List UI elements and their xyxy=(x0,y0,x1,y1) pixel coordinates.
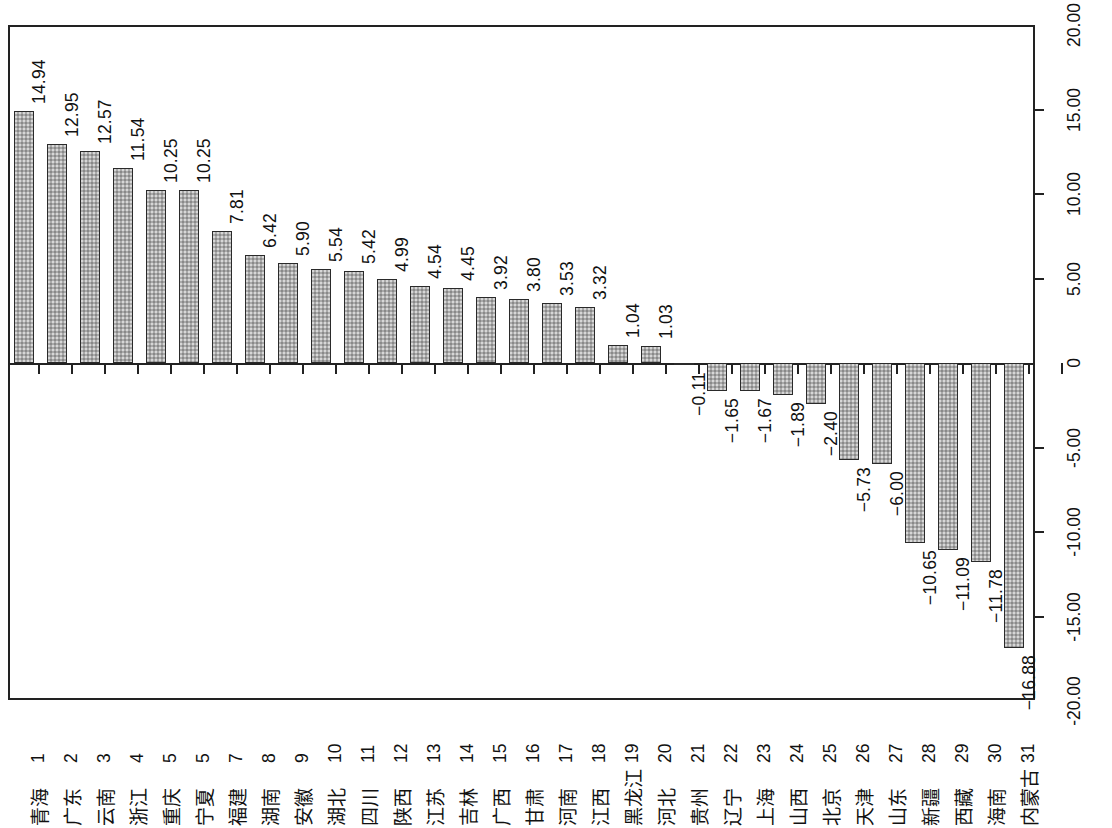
x-axis-tick xyxy=(368,363,370,374)
x-axis-rank-label: 26 xyxy=(855,744,873,763)
bar xyxy=(245,255,265,363)
x-axis-category-label: 重庆 xyxy=(163,788,182,826)
bar-value-label: −1.89 xyxy=(790,402,808,447)
x-axis-category-label: 内蒙古 xyxy=(1021,769,1040,826)
x-axis-rank-label: 16 xyxy=(525,744,543,763)
x-axis-category-label: 安徽 xyxy=(295,788,314,826)
x-axis-rank-label: 9 xyxy=(294,753,312,763)
x-axis-rank-label: 2 xyxy=(63,753,81,763)
x-axis-tick xyxy=(863,363,865,374)
x-axis-tick xyxy=(302,363,304,374)
y-axis-tick xyxy=(1035,447,1044,449)
bar-value-label: 12.57 xyxy=(97,99,115,144)
x-axis-rank-label: 24 xyxy=(789,744,807,763)
x-axis-tick xyxy=(38,363,40,374)
bar-value-label: −6.00 xyxy=(889,471,907,516)
y-axis-tick xyxy=(1035,531,1044,533)
x-axis-category-label: 云南 xyxy=(97,788,116,826)
x-axis-rank-label: 7 xyxy=(228,753,246,763)
bar xyxy=(872,363,892,464)
x-axis-tick xyxy=(797,363,799,374)
x-axis-rank-label: 20 xyxy=(657,744,675,763)
bar xyxy=(377,279,397,363)
bar xyxy=(707,363,727,391)
x-axis-rank-label: 11 xyxy=(360,745,378,763)
bar xyxy=(344,271,364,363)
x-axis-rank-label: 5 xyxy=(195,753,213,763)
x-axis-rank-label: 30 xyxy=(987,744,1005,763)
bar-value-label: 5.42 xyxy=(361,230,379,265)
bar xyxy=(905,363,925,543)
bar xyxy=(146,190,166,363)
bar-value-label: 3.80 xyxy=(526,257,544,292)
bar-value-label: −1.65 xyxy=(724,398,742,443)
x-axis-rank-label: 5 xyxy=(162,753,180,763)
bar xyxy=(80,151,100,363)
bar xyxy=(575,307,595,363)
bar-value-label: 3.53 xyxy=(559,261,577,296)
bar xyxy=(641,346,661,363)
x-axis-tick xyxy=(962,363,964,374)
bar-value-label: 10.25 xyxy=(163,138,181,183)
x-axis-category-label: 河北 xyxy=(658,788,677,826)
x-axis-rank-label: 17 xyxy=(558,744,576,763)
x-axis-tick xyxy=(269,363,271,374)
y-axis-label: -10.00 xyxy=(1066,507,1084,557)
bar xyxy=(938,363,958,550)
x-axis-rank-label: 10 xyxy=(327,744,345,763)
x-axis-category-label: 新疆 xyxy=(922,788,941,826)
y-axis-label: -20.00 xyxy=(1066,676,1084,726)
x-axis-category-label: 浙江 xyxy=(130,788,149,826)
bar xyxy=(608,345,628,363)
x-axis-tick xyxy=(929,363,931,374)
bar-value-label: −16.88 xyxy=(1021,655,1039,710)
x-axis-category-label: 北京 xyxy=(823,788,842,826)
x-axis-rank-label: 12 xyxy=(393,744,411,763)
x-axis-tick xyxy=(467,363,469,374)
x-axis-category-label: 宁夏 xyxy=(196,788,215,826)
x-axis-tick xyxy=(599,363,601,374)
bar xyxy=(674,363,694,365)
bar-value-label: −1.67 xyxy=(757,398,775,443)
x-axis-tick xyxy=(71,363,73,374)
x-axis-rank-label: 27 xyxy=(888,744,906,763)
bar xyxy=(311,269,331,363)
bar xyxy=(47,144,67,363)
bar-value-label: 5.54 xyxy=(328,227,346,262)
x-axis-rank-label: 25 xyxy=(822,744,840,763)
bar xyxy=(212,231,232,363)
x-axis-category-label: 湖北 xyxy=(328,788,347,826)
bar xyxy=(113,168,133,363)
bar-value-label: −11.78 xyxy=(988,569,1006,623)
x-axis-category-label: 广西 xyxy=(493,788,512,826)
x-axis-category-label: 贵州 xyxy=(691,788,710,826)
x-axis-tick xyxy=(731,363,733,374)
bar-value-label: −0.11 xyxy=(691,372,709,416)
x-axis-tick xyxy=(335,363,337,374)
x-axis-rank-label: 22 xyxy=(723,744,741,763)
x-axis-tick xyxy=(566,363,568,374)
x-axis-rank-label: 21 xyxy=(690,744,708,763)
x-axis-category-label: 福建 xyxy=(229,788,248,826)
bar xyxy=(14,111,34,363)
bar xyxy=(740,363,760,391)
bar xyxy=(443,288,463,363)
x-axis-tick xyxy=(764,363,766,374)
x-axis-rank-label: 13 xyxy=(426,744,444,763)
x-axis-tick xyxy=(170,363,172,374)
bar-value-label: 14.94 xyxy=(31,59,49,104)
y-axis-label: 0 xyxy=(1066,358,1084,368)
x-axis-rank-label: 28 xyxy=(921,744,939,763)
y-axis-tick xyxy=(1035,278,1044,280)
bar xyxy=(773,363,793,395)
x-axis-category-label: 湖南 xyxy=(262,788,281,826)
x-axis-tick xyxy=(995,363,997,374)
bar xyxy=(839,363,859,460)
x-axis-tick xyxy=(434,363,436,374)
bar xyxy=(806,363,826,404)
x-axis-tick xyxy=(137,363,139,374)
bar-value-label: 4.54 xyxy=(427,244,445,279)
x-axis-rank-label: 3 xyxy=(96,753,114,763)
x-axis-tick xyxy=(1061,363,1063,374)
y-axis-tick xyxy=(1035,193,1044,195)
